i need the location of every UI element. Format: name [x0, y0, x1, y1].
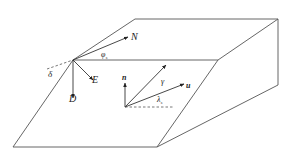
down-label: D	[68, 93, 77, 104]
slip-frame: n γ u λs	[122, 65, 191, 107]
strike-angle-label: φs	[101, 50, 107, 60]
slip-vector-arrow-icon	[125, 84, 184, 107]
right-bottom-edge	[157, 85, 278, 147]
north-label: N	[130, 31, 139, 42]
gamma-label: γ	[161, 77, 165, 86]
fault-block	[13, 19, 278, 147]
fault-geometry-diagram: N E D φs δ n γ u λs	[0, 0, 293, 157]
east-arrow-icon	[73, 60, 93, 80]
fault-plane-left-edge	[13, 60, 73, 147]
slip-vector-label: u	[186, 81, 191, 90]
normal-label: n	[122, 73, 127, 82]
fault-plane-right-edge	[157, 60, 218, 147]
dip-angle-label: δ	[48, 69, 53, 79]
top-right-slope-edge	[218, 19, 278, 60]
east-label: E	[91, 74, 98, 85]
dip-reference-dashed-line	[47, 60, 73, 69]
rake-angle-label: λs	[156, 95, 162, 105]
